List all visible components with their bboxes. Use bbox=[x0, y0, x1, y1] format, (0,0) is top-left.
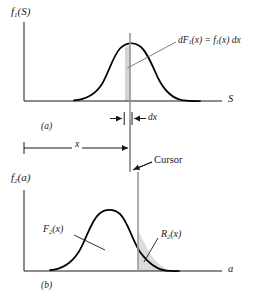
panel-a-y-axis-label-arg: (S) bbox=[17, 5, 30, 17]
panel-b-y-axis-label: f2(a) bbox=[11, 172, 30, 185]
cdf-label-leader-line bbox=[74, 235, 105, 250]
equation-tail: (x) dx bbox=[219, 35, 241, 45]
panel-b-caption: (b) bbox=[41, 281, 52, 291]
panel-a-caption: (a) bbox=[41, 122, 52, 132]
panel-b-density-curve bbox=[50, 210, 179, 271]
tail-label: R2(x) bbox=[161, 229, 181, 240]
dx-label: dx bbox=[148, 113, 157, 123]
panel-b-y-axis-label-arg: (a) bbox=[17, 171, 30, 183]
figure-canvas: f1(S) S dF1(x) = f1(x) dx dx (a) x Curso… bbox=[0, 0, 266, 302]
panel-a-y-axis-label: f1(S) bbox=[11, 6, 30, 19]
panel-a-density-curve bbox=[74, 43, 200, 101]
differential-equation-annotation: dF1(x) = f1(x) dx bbox=[178, 36, 241, 46]
cursor-arrow-to-line-top bbox=[134, 162, 153, 170]
cursor-label: Cursor bbox=[154, 155, 183, 166]
cdf-label-arg: (x) bbox=[52, 223, 63, 234]
equation-mid: (x) = f bbox=[192, 35, 216, 45]
equation-lead: dF bbox=[178, 35, 189, 45]
panel-a-x-axis-label: S bbox=[228, 94, 233, 105]
x-dimension-label: x bbox=[72, 139, 82, 149]
panel-b-x-axis-label: a bbox=[228, 264, 233, 275]
tail-label-arg: (x) bbox=[170, 228, 181, 239]
panel-b-group bbox=[24, 172, 222, 271]
cdf-label: F2(x) bbox=[43, 224, 63, 235]
